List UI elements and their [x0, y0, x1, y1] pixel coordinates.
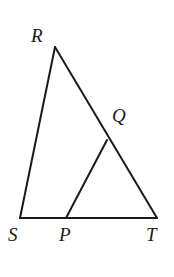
segment-PQ [66, 140, 107, 218]
vertex-label-P: P [59, 225, 71, 244]
vertex-label-R: R [31, 26, 43, 45]
vertex-label-S: S [8, 225, 18, 244]
segment-RT [55, 47, 157, 218]
geometry-figure: R Q S P T [0, 0, 174, 277]
segment-RS [20, 47, 55, 218]
vertex-label-T: T [146, 225, 157, 244]
vertex-label-Q: Q [112, 106, 126, 125]
